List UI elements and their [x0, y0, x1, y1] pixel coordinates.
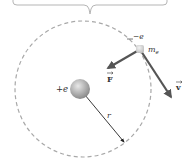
bohr-atom-diagram: r +e F v −e me [0, 0, 191, 166]
velocity-vector-label: v [175, 81, 182, 92]
radius-label: r [107, 111, 112, 120]
svg-text:−e: −e [133, 32, 144, 41]
electron-icon [136, 45, 144, 53]
svg-text:v: v [175, 82, 181, 92]
nucleus-charge-label: +e [56, 84, 68, 94]
top-bracket [13, 0, 167, 14]
force-vector-label: F [107, 72, 113, 84]
force-vector-arrow [108, 50, 139, 68]
svg-text:F: F [107, 74, 113, 84]
svg-text:me: me [148, 45, 160, 55]
velocity-vector-arrow [141, 51, 171, 97]
radius-line [80, 89, 124, 142]
nucleus-icon [70, 79, 90, 99]
electron-mass-label: me [148, 45, 160, 55]
